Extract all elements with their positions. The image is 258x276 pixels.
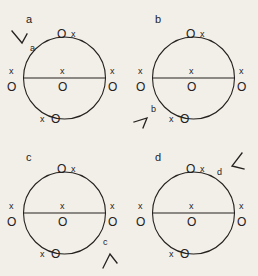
angle-arrow-down-right-icon: [12, 31, 27, 43]
marker-center-out: O: [58, 81, 67, 93]
marker-center-into: x: [60, 202, 65, 211]
angle-arrow-up-icon: [103, 254, 117, 268]
marker-bottom-into: x: [169, 115, 174, 124]
marker-bottom-into: x: [169, 250, 174, 259]
marker-right-out: O: [237, 216, 246, 228]
figure-panel-grid: a a O x x O x O x O x O b b O x x O x O …: [0, 0, 258, 276]
marker-left-out: O: [7, 216, 16, 228]
marker-right-out: O: [108, 81, 117, 93]
marker-center-out: O: [187, 81, 196, 93]
marker-left-into: x: [9, 202, 14, 211]
panel-d: d d O x x O x O x O x O: [129, 138, 258, 276]
angle-arrow-down-left-icon: [232, 153, 244, 169]
marker-left-into: x: [138, 67, 143, 76]
marker-right-out: O: [237, 81, 246, 93]
marker-top-into: x: [71, 165, 76, 174]
panel-label-c: c: [26, 152, 32, 163]
panel-c: c c O x x O x O x O x O: [0, 138, 129, 276]
marker-left-into: x: [138, 202, 143, 211]
marker-top-out: O: [186, 28, 195, 40]
marker-top-into: x: [71, 30, 76, 39]
marker-center-out: O: [58, 216, 67, 228]
marker-top-out: O: [57, 163, 66, 175]
marker-left-out: O: [136, 216, 145, 228]
marker-right-into: x: [239, 202, 244, 211]
marker-top-into: x: [200, 165, 205, 174]
marker-bottom-out: O: [51, 248, 60, 260]
marker-left-out: O: [7, 81, 16, 93]
angle-arrow-up-right-icon: [134, 118, 147, 128]
marker-bottom-out: O: [180, 248, 189, 260]
marker-center-out: O: [187, 216, 196, 228]
marker-top-out: O: [57, 28, 66, 40]
marker-bottom-into: x: [40, 250, 45, 259]
marker-bottom-out: O: [51, 113, 60, 125]
marker-left-out: O: [136, 81, 145, 93]
marker-bottom-out: O: [180, 113, 189, 125]
marker-center-into: x: [60, 67, 65, 76]
panel-label-b: b: [155, 14, 161, 25]
panel-a: a a O x x O x O x O x O: [0, 0, 129, 138]
marker-right-into: x: [110, 67, 115, 76]
annotation-label-a: a: [30, 44, 35, 53]
marker-top-out: O: [186, 163, 195, 175]
marker-right-into: x: [239, 67, 244, 76]
panel-label-a: a: [26, 14, 32, 25]
marker-top-into: x: [200, 30, 205, 39]
marker-bottom-into: x: [40, 115, 45, 124]
annotation-label-d: d: [217, 168, 222, 177]
panel-label-d: d: [155, 152, 161, 163]
panel-b: b b O x x O x O x O x O: [129, 0, 258, 138]
marker-left-into: x: [9, 67, 14, 76]
marker-center-into: x: [189, 202, 194, 211]
annotation-label-c: c: [103, 238, 108, 247]
marker-right-out: O: [108, 216, 117, 228]
marker-right-into: x: [110, 202, 115, 211]
marker-center-into: x: [189, 67, 194, 76]
annotation-label-b: b: [151, 105, 156, 114]
